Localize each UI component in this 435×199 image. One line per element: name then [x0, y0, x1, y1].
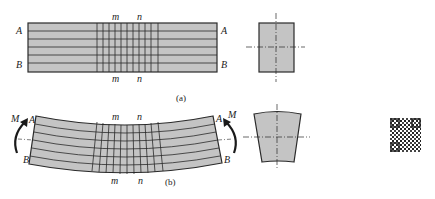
- label-moment-right: M: [227, 109, 237, 120]
- qr-code: [390, 118, 421, 152]
- beam-undeformed: A B A B m n m n: [15, 11, 228, 84]
- label-a-left: A: [15, 25, 23, 36]
- label-a-right-b: A: [215, 113, 223, 124]
- moment-arrow-right-icon: [223, 118, 236, 153]
- label-m-bottom: m: [112, 73, 119, 84]
- label-n-bottom: n: [137, 73, 142, 84]
- cross-section-rectangular: [246, 13, 305, 82]
- label-n-top-b: n: [137, 111, 142, 122]
- cross-section-trapezoidal: [243, 104, 310, 170]
- beam-bent: M A B A M B m n m n: [10, 109, 237, 186]
- label-n-bottom-b: n: [138, 175, 143, 186]
- label-n-top: n: [137, 11, 142, 22]
- label-m-top-b: m: [112, 111, 119, 122]
- label-m-top: m: [112, 11, 119, 22]
- label-b-right-b: B: [224, 154, 230, 165]
- caption-a: (a): [176, 93, 186, 103]
- label-moment-left: M: [10, 113, 20, 124]
- label-a-right: A: [220, 25, 228, 36]
- caption-b: (b): [165, 177, 176, 187]
- label-b-left: B: [16, 59, 22, 70]
- pure-bending-diagram: A B A B m n m n (a): [0, 0, 435, 199]
- label-b-right: B: [221, 59, 227, 70]
- label-m-bottom-b: m: [111, 175, 118, 186]
- label-a-left-b: A: [28, 114, 36, 125]
- label-b-left-b: B: [23, 154, 29, 165]
